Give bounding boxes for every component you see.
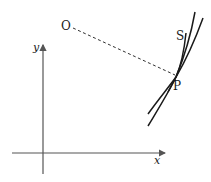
label-o: O xyxy=(61,20,71,32)
label-p: P xyxy=(173,80,181,92)
curve-1 xyxy=(148,12,195,126)
label-x-axis: x xyxy=(154,155,160,166)
dashed-segment-op xyxy=(73,28,175,75)
label-s: S xyxy=(176,30,184,42)
label-y-axis: y xyxy=(33,42,39,53)
